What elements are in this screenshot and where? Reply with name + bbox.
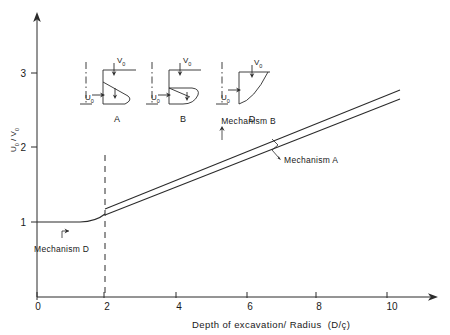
chart-svg: 1 2 3 U0 / V0 0 2 4 6 8 10 Depth of exca… [0,0,450,335]
inset-b-box [169,70,201,104]
inset-d-v-label: V0 [254,58,262,69]
mechanism-d-callout-label: Mechanism D [34,244,89,254]
x-axis-title-suffix: (D/ç) [328,319,351,330]
inset-mechanism-b: V0 U0 B [146,56,201,124]
y-tick-label-1: 1 [20,217,26,228]
inset-mechanism-a: V0 U0 A [80,56,136,124]
mechanism-d-callout: Mechanism D [34,229,89,254]
y-axis-title: U0 / V0 [9,128,20,152]
x-tick-label-8: 8 [316,301,322,312]
x-axis: 0 2 4 6 8 10 Depth of excavation/ Radius… [35,292,438,330]
figure-container: 1 2 3 U0 / V0 0 2 4 6 8 10 Depth of exca… [0,0,450,335]
inset-b-arc-shape [169,88,198,104]
inset-mechanism-d: V0 U0 D [216,58,270,124]
y-tick-label-3: 3 [20,68,26,79]
curve-mechanism-b [105,90,400,209]
inset-b-caption: B [180,114,186,124]
inset-d-caption: D [249,114,256,124]
x-tick-label-0: 0 [35,301,41,312]
svg-text:U0 / V0: U0 / V0 [9,128,20,152]
inset-a-v-label: V0 [117,56,125,67]
x-axis-title-main: Depth of excavation/ Radius [192,319,322,330]
mechanism-a-callout: Mechanism A [272,139,338,165]
inset-a-caption: A [114,114,120,124]
mechanism-a-callout-label: Mechanism A [284,155,338,165]
x-axis-title: Depth of excavation/ Radius (D/ç) [192,319,350,330]
y-tick-label-2: 2 [20,142,26,153]
inset-a-wedge-shape [103,82,130,104]
x-tick-label-10: 10 [386,301,398,312]
mechanism-b-callout: Mechanism B [219,116,276,140]
curve-mechanism-d [37,214,105,222]
x-tick-label-6: 6 [247,301,253,312]
inset-a-box [103,70,136,104]
y-axis: 1 2 3 U0 / V0 [9,12,41,297]
y-axis-denominator-sub: 0 [14,128,20,131]
inset-b-v-label: V0 [183,56,191,67]
inset-d-curve-shape [239,72,268,104]
x-tick-label-4: 4 [176,301,182,312]
x-tick-label-2: 2 [104,301,110,312]
inset-d-u-label: U0 [221,93,230,104]
